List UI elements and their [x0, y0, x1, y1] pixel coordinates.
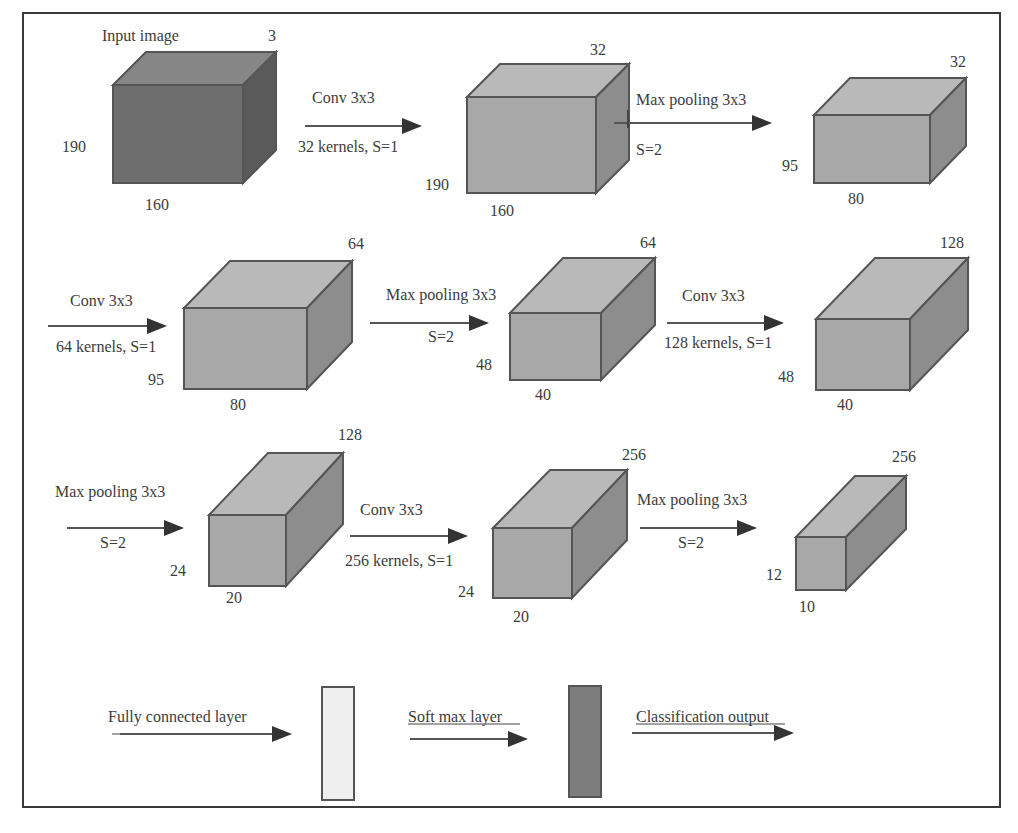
- block-height: 190: [62, 138, 86, 155]
- block-width: 80: [848, 190, 864, 207]
- softmax-layer-bar: [569, 686, 601, 797]
- block-depth: 64: [348, 235, 364, 252]
- block-conv3: 128 48 40: [778, 234, 968, 413]
- op-bottom-label: S=2: [636, 141, 662, 158]
- block-height: 24: [170, 562, 186, 579]
- op-bottom-label: 32 kernels, S=1: [298, 138, 398, 155]
- op-top-label: Max pooling 3x3: [55, 483, 165, 501]
- block-conv2: 64 95 80: [148, 235, 364, 413]
- block-depth: 32: [950, 53, 966, 70]
- block-width: 40: [535, 386, 551, 403]
- block-width: 20: [226, 589, 242, 606]
- block-depth: 256: [622, 446, 646, 463]
- block-height: 12: [766, 566, 782, 583]
- block-pool3: 128 24 20: [170, 426, 362, 606]
- classification-output-stage: Classification output: [632, 708, 792, 733]
- operation-pool4: Max pooling 3x3 S=2: [637, 491, 755, 551]
- block-width: 160: [490, 202, 514, 219]
- block-conv4: 256 24 20: [458, 446, 646, 625]
- softmax-stage: Soft max layer: [408, 686, 601, 797]
- block-pool2: 64 48 40: [476, 234, 656, 403]
- block-width: 40: [837, 396, 853, 413]
- block-depth: 256: [892, 448, 916, 465]
- block-depth: 32: [590, 41, 606, 58]
- block-height: 48: [476, 356, 492, 373]
- op-top-label: Max pooling 3x3: [386, 286, 496, 304]
- op-bottom-label: S=2: [428, 328, 454, 345]
- block-height: 190: [425, 176, 449, 193]
- op-top-label: Conv 3x3: [312, 89, 375, 106]
- op-bottom-label: 256 kernels, S=1: [345, 552, 453, 569]
- block-conv1: 32 190 160: [425, 41, 629, 219]
- block-height: 95: [148, 371, 164, 388]
- op-bottom-label: 128 kernels, S=1: [664, 334, 772, 351]
- op-top-label: Max pooling 3x3: [636, 91, 746, 109]
- op-bottom-label: S=2: [678, 534, 704, 551]
- operation-conv2: Conv 3x3 64 kernels, S=1: [48, 292, 165, 355]
- op-bottom-label: S=2: [100, 534, 126, 551]
- block-depth: 64: [640, 234, 656, 251]
- block-depth: 128: [338, 426, 362, 443]
- operation-conv4: Conv 3x3 256 kernels, S=1: [345, 501, 466, 569]
- softmax-label: Soft max layer: [408, 708, 503, 726]
- block-height: 24: [458, 583, 474, 600]
- block-width: 20: [513, 608, 529, 625]
- op-top-label: Conv 3x3: [682, 287, 745, 304]
- operation-pool1: Max pooling 3x3 S=2: [614, 91, 770, 158]
- block-height: 95: [782, 157, 798, 174]
- operation-conv3: Conv 3x3 128 kernels, S=1: [664, 287, 782, 351]
- output-label: Classification output: [636, 708, 769, 726]
- block-depth: 128: [940, 234, 964, 251]
- operation-pool3: Max pooling 3x3 S=2: [55, 483, 182, 551]
- block-depth: 3: [268, 27, 276, 44]
- block-input: Input image 3 190 160: [62, 27, 276, 213]
- block-height: 48: [778, 368, 794, 385]
- op-top-label: Conv 3x3: [360, 501, 423, 518]
- fc-label: Fully connected layer: [108, 708, 247, 726]
- fc-layer-bar: [322, 687, 354, 800]
- block-width: 10: [799, 598, 815, 615]
- op-top-label: Max pooling 3x3: [637, 491, 747, 509]
- operation-conv1: Conv 3x3 32 kernels, S=1: [298, 89, 420, 155]
- block-width: 80: [230, 396, 246, 413]
- cnn-diagram: Input image 3 190 160 Conv 3x3 32 kernel…: [0, 0, 1018, 833]
- block-title: Input image: [102, 27, 179, 45]
- block-width: 160: [145, 196, 169, 213]
- operation-pool2: Max pooling 3x3 S=2: [370, 286, 496, 345]
- fully-connected-stage: Fully connected layer: [108, 687, 354, 800]
- op-bottom-label: 64 kernels, S=1: [56, 338, 156, 355]
- block-pool1: 32 95 80: [782, 53, 966, 207]
- op-top-label: Conv 3x3: [70, 292, 133, 309]
- block-pool4: 256 12 10: [766, 448, 916, 615]
